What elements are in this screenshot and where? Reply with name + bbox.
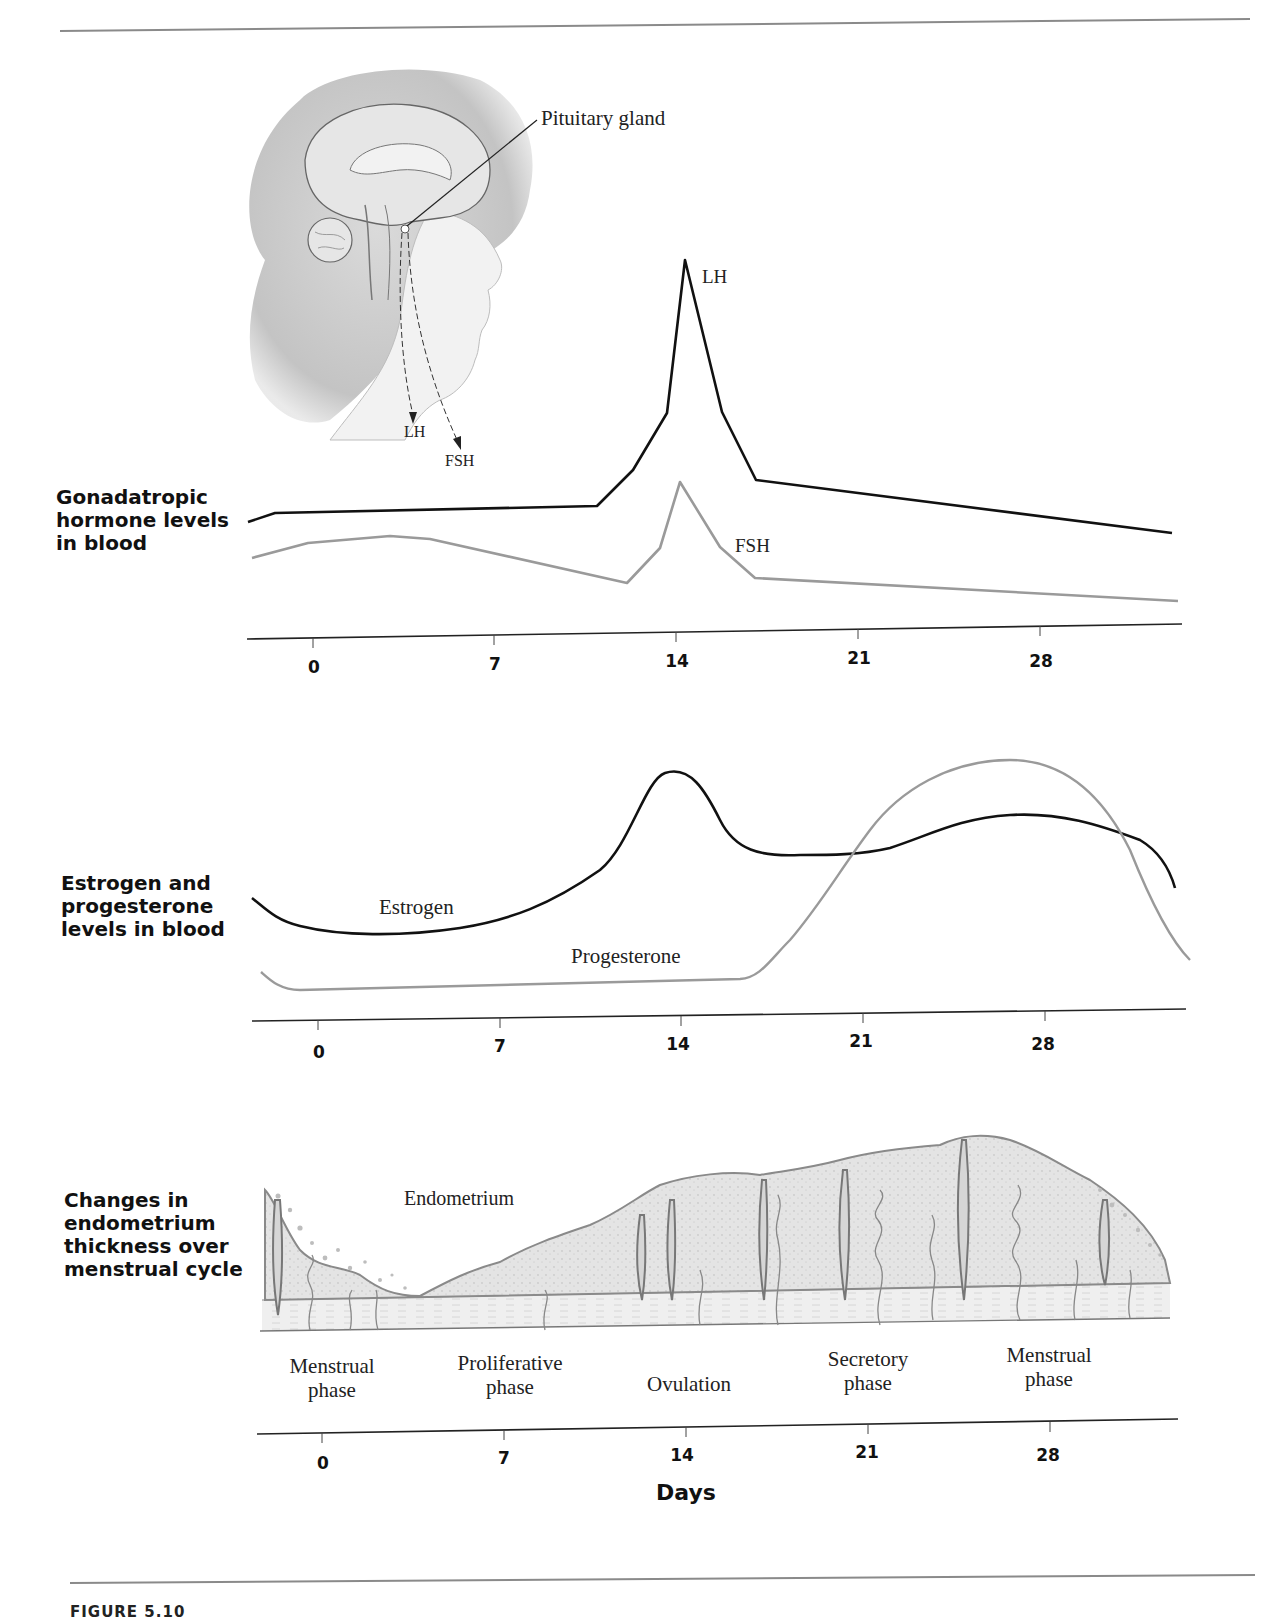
figure-caption: FIGURE 5.10 bbox=[70, 1603, 185, 1621]
tick-label: 7 bbox=[498, 1448, 510, 1468]
tick-label: 21 bbox=[855, 1442, 879, 1462]
tick-label: 28 bbox=[1036, 1445, 1060, 1465]
tick-label: 14 bbox=[670, 1445, 694, 1465]
tick-label: 0 bbox=[317, 1453, 329, 1473]
x-axis-title: Days bbox=[656, 1480, 716, 1505]
